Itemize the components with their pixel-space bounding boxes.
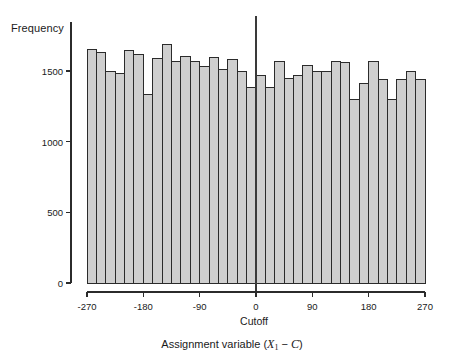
x-axis-tick-label: 0 bbox=[253, 301, 258, 312]
histogram-bar bbox=[172, 62, 181, 283]
histogram-bar bbox=[162, 44, 171, 283]
histogram-bar bbox=[190, 62, 199, 283]
plot-canvas bbox=[0, 0, 449, 360]
histogram-bar bbox=[134, 55, 143, 283]
histogram-bar bbox=[106, 71, 115, 283]
histogram-bar bbox=[237, 72, 246, 283]
histogram-bar bbox=[350, 99, 359, 283]
histogram-bar bbox=[265, 88, 274, 283]
histogram-bar bbox=[96, 53, 105, 283]
histogram-bar bbox=[125, 51, 134, 283]
histogram-bar bbox=[218, 70, 227, 283]
histogram-bar bbox=[115, 73, 124, 283]
histogram-bar bbox=[331, 61, 340, 283]
histogram-bar bbox=[247, 88, 256, 283]
x-axis-tick-label: -180 bbox=[134, 301, 153, 312]
x-axis-title-minus: − bbox=[278, 338, 291, 350]
cutoff-annotation: Cutoff bbox=[240, 315, 268, 327]
y-axis-tick-label: 500 bbox=[28, 207, 63, 218]
histogram-bar bbox=[312, 71, 321, 283]
histogram-bar bbox=[341, 63, 350, 283]
x-axis-tick-label: 270 bbox=[417, 301, 433, 312]
y-axis-tick-label: 1500 bbox=[28, 66, 63, 77]
histogram-bar bbox=[87, 49, 96, 283]
x-axis-title-suffix: ) bbox=[299, 338, 303, 350]
histogram-bar bbox=[397, 79, 406, 283]
histogram-bar bbox=[387, 99, 396, 283]
x-axis-tick-label: -90 bbox=[193, 301, 207, 312]
x-axis-title: Assignment variable (X1 − C) bbox=[161, 337, 302, 352]
histogram-bar bbox=[378, 79, 387, 283]
x-axis-title-prefix: Assignment variable ( bbox=[161, 338, 267, 350]
histogram-bar bbox=[322, 72, 331, 283]
histogram-bar bbox=[294, 75, 303, 283]
histogram-figure: Frequency 050010001500 -270-180-90090180… bbox=[0, 0, 449, 360]
histogram-bar bbox=[406, 72, 415, 283]
x-axis-title-cutoff-variable: C bbox=[291, 337, 299, 351]
histogram-bar bbox=[359, 83, 368, 283]
histogram-bar bbox=[256, 76, 265, 283]
histogram-bar bbox=[181, 56, 190, 283]
y-axis-tick-label: 1000 bbox=[28, 136, 63, 147]
y-axis-tick-label: 0 bbox=[28, 278, 63, 289]
histogram-bar bbox=[369, 61, 378, 283]
histogram-bar bbox=[143, 94, 152, 283]
histogram-bar bbox=[303, 65, 312, 283]
histogram-bar bbox=[200, 67, 209, 283]
histogram-bar bbox=[228, 60, 237, 283]
histogram-bar bbox=[284, 79, 293, 283]
histogram-bar bbox=[209, 58, 218, 283]
histogram-bar bbox=[153, 59, 162, 283]
histogram-bar bbox=[416, 79, 425, 283]
histogram-bar bbox=[275, 61, 284, 283]
x-axis-tick-label: 180 bbox=[361, 301, 377, 312]
x-axis-tick-label: -270 bbox=[77, 301, 96, 312]
x-axis-tick-label: 90 bbox=[307, 301, 318, 312]
